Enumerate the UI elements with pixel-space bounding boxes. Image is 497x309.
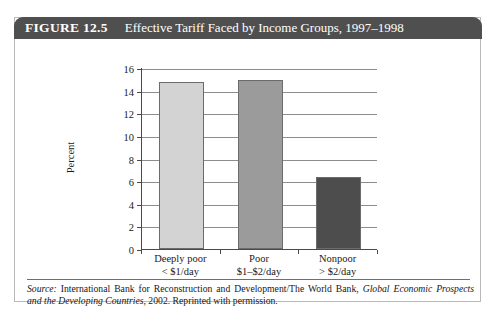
y-axis-tick — [137, 227, 141, 228]
category-sublabel: > $2/day — [298, 265, 377, 278]
bar-deeply-poor — [159, 82, 204, 249]
y-axis-tick — [137, 205, 141, 206]
y-axis-tick-label: 12 — [124, 109, 135, 120]
y-axis-title: Percent — [65, 98, 76, 218]
figure-title: Effective Tariff Faced by Income Groups,… — [125, 20, 404, 36]
figure-number-label: FIGURE 12.5 — [25, 20, 108, 36]
y-axis-tick-label: 2 — [129, 222, 134, 233]
y-axis-tick-label: 8 — [129, 154, 134, 165]
source-note: Source: International Bank for Reconstru… — [27, 283, 474, 308]
bar-nonpoor — [316, 177, 361, 249]
x-axis-tick — [377, 250, 378, 254]
category-name: Deeply poor — [154, 253, 206, 264]
x-axis-category-label: Deeply poor< $1/day — [141, 252, 220, 278]
source-label: Source: — [27, 283, 57, 294]
x-axis-line — [141, 249, 377, 250]
source-divider — [27, 279, 470, 280]
y-axis-tick — [137, 114, 141, 115]
bar-poor — [238, 80, 283, 249]
category-name: Nonpoor — [319, 253, 356, 264]
y-axis-tick — [137, 69, 141, 70]
source-text-tail: , 2002. Reprinted with permission. — [144, 295, 278, 306]
y-axis-tick-label: 16 — [124, 64, 135, 75]
y-axis-tick — [137, 160, 141, 161]
plot-box: 0246810121416 — [141, 68, 377, 250]
y-axis-tick-label: 14 — [124, 86, 135, 97]
y-axis-tick — [137, 182, 141, 183]
category-sublabel: < $1/day — [141, 265, 220, 278]
y-axis-tick-label: 4 — [129, 199, 134, 210]
y-axis-tick — [137, 137, 141, 138]
y-axis-tick — [137, 92, 141, 93]
x-axis-category-label: Nonpoor> $2/day — [298, 252, 377, 278]
x-axis-category-label: Poor$1–$2/day — [220, 252, 299, 278]
category-name: Poor — [249, 253, 269, 264]
chart-plot-region: Percent 0246810121416 Deeply poor< $1/da… — [15, 40, 480, 280]
y-axis-tick-label: 10 — [124, 131, 135, 142]
x-axis-category-labels: Deeply poor< $1/dayPoor$1–$2/dayNonpoor>… — [141, 252, 377, 286]
y-axis-tick-label: 6 — [129, 177, 134, 188]
category-sublabel: $1–$2/day — [220, 265, 299, 278]
source-text-lead: International Bank for Reconstruction an… — [57, 283, 363, 294]
figure-card: FIGURE 12.5 Effective Tariff Faced by In… — [14, 17, 481, 302]
figure-header: FIGURE 12.5 Effective Tariff Faced by In… — [14, 17, 482, 39]
y-axis-tick-label: 0 — [129, 245, 134, 256]
bars-group — [142, 68, 377, 249]
